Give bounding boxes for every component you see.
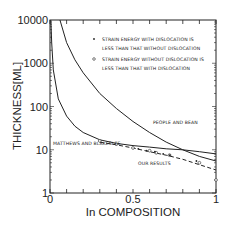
annotation-people-and-bean: PEOPLE AND BEAN [153, 120, 198, 125]
filled-dot-point [137, 148, 139, 150]
open-circle-point [198, 161, 201, 164]
open-circle-point [215, 179, 218, 182]
open-circle-point [132, 147, 135, 150]
x-axis-title: In COMPOSITION [86, 206, 181, 218]
filled-dot-point [169, 154, 171, 156]
annotation-matthews-and-blakeslee: MATTHEWS AND BLAKESLEE [53, 141, 121, 146]
y-tick-label: 10000 [17, 14, 48, 26]
filled-dot-point [196, 160, 198, 162]
legend-filled-dot-icon [93, 38, 95, 40]
legend-entry-1-line2: LESS THAN THAT WITHOUT DISLOCATION [102, 46, 200, 51]
filled-dot-point [162, 153, 164, 155]
y-axis-title: THICKNESS[ML] [11, 62, 23, 150]
chart: 11010010001000000.51 STRAIN ENERGY WITH … [0, 0, 229, 230]
annotation-our-results: OUR RESULTS [138, 161, 171, 166]
filled-dot-point [146, 150, 148, 152]
y-tick-label: 1000 [24, 57, 48, 69]
open-circle-point [148, 149, 151, 152]
x-tick-label: 0 [47, 193, 53, 205]
x-tick-label: 0.5 [125, 193, 140, 205]
y-tick-label: 100 [30, 101, 48, 113]
filled-dot-point [154, 151, 156, 153]
legend-entry-1-line1: STRAIN ENERGY WITH DISLOCATION IS [102, 37, 194, 42]
y-tick-label: 10 [36, 144, 48, 156]
legend-open-circle-icon [93, 58, 96, 61]
legend-entry-2-line1: STRAIN ENERGY WITHOUT DISLOCATION IS [102, 57, 204, 62]
x-tick-label: 1 [213, 193, 219, 205]
legend: STRAIN ENERGY WITH DISLOCATION IS LESS T… [93, 37, 204, 72]
legend-entry-2-line2: LESS THAN THAT WITH DISLOCATION [102, 66, 190, 71]
